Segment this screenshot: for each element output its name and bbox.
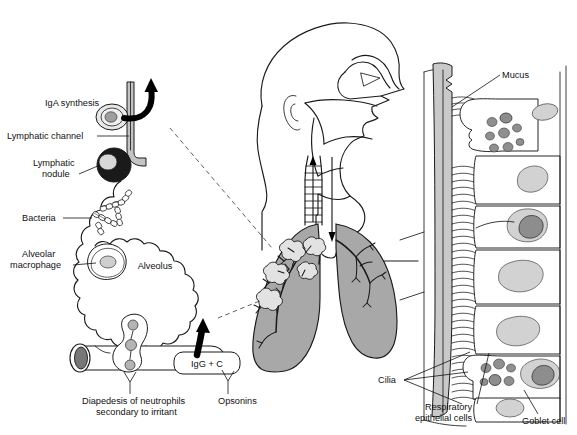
label-respiratory-epithelial-cells-line2: epithelial cells bbox=[415, 413, 473, 423]
label-lymphatic-nodule-line1: Lymphatic bbox=[33, 158, 75, 168]
igg-c-box: IgG + C bbox=[174, 352, 240, 374]
label-lymphatic-nodule-line2: nodule bbox=[42, 169, 70, 179]
label-alveolar-macrophage-line2: macrophage bbox=[10, 260, 61, 270]
label-goblet-cell: Goblet cell bbox=[522, 416, 565, 426]
label-cilia: Cilia bbox=[378, 375, 397, 385]
label-lymphatic-channel: Lymphatic channel bbox=[7, 131, 83, 141]
alveolar-macrophage-cell bbox=[88, 244, 127, 280]
label-alveolar-macrophage-line1: Alveolar bbox=[22, 249, 55, 259]
label-diapedesis-line1: Diapedesis of neutrophils bbox=[82, 396, 186, 406]
label-alveolus: Alveolus bbox=[138, 261, 173, 271]
label-bacteria: Bacteria bbox=[22, 213, 57, 223]
goblet-cell-top bbox=[460, 99, 538, 152]
igg-c-label: IgG + C bbox=[191, 359, 223, 369]
respiratory-defense-figure: IgG + C IgA synthesis Lymphatic channel … bbox=[0, 0, 577, 435]
label-mucus: Mucus bbox=[502, 70, 529, 80]
label-opsonins: Opsonins bbox=[218, 396, 257, 406]
label-respiratory-epithelial-cells-line1: Respiratory bbox=[425, 402, 472, 412]
label-diapedesis-line2: secondary to irritant bbox=[96, 407, 177, 417]
label-iga-synthesis: IgA synthesis bbox=[45, 98, 100, 108]
lymphatic-nodule-shape bbox=[97, 148, 131, 182]
